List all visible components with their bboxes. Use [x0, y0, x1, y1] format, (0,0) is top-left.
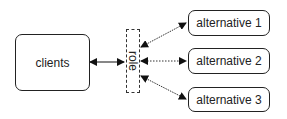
node-alternative-3-label: alternative 3 [196, 93, 261, 107]
node-role-label: role [126, 51, 140, 71]
node-alternative-3: alternative 3 [188, 87, 270, 112]
diagram: clients role alternative 1 alternative 2… [0, 0, 287, 119]
node-clients: clients [15, 34, 90, 91]
node-alternative-1-label: alternative 1 [196, 16, 261, 30]
edge-role-alternative-1 [141, 23, 186, 47]
node-alternative-2-label: alternative 2 [196, 54, 261, 68]
node-alternative-1: alternative 1 [188, 10, 270, 36]
node-alternative-2: alternative 2 [188, 48, 270, 74]
node-clients-label: clients [35, 56, 69, 70]
node-role: role [126, 29, 140, 93]
edge-role-alternative-3 [141, 76, 186, 99]
